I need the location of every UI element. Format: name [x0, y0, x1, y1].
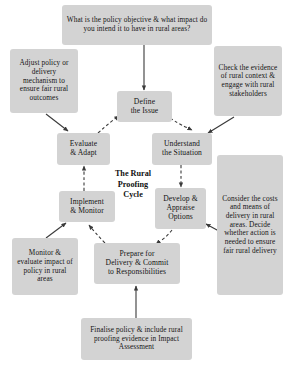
- cycle-arrow-prepare-to-implement: [89, 225, 105, 243]
- annotation-consider-costs: Consider the costs and means of delivery…: [217, 155, 283, 295]
- stage-evaluate-adapt: Evaluate& Adapt: [57, 133, 110, 165]
- annotation-check-evidence: Check the evidence of rural context & en…: [214, 46, 282, 116]
- stage-prepare-for-delivery: Prepare forDelivery & Committo Responsib…: [94, 243, 180, 284]
- annotation-monitor-evaluate: Monitor & evaluate impact of policy in r…: [12, 238, 78, 295]
- cycle-arrow-develop-to-prepare: [156, 230, 172, 244]
- annotation-adjust-policy: Adjust policy or delivery mechanism to e…: [10, 49, 78, 113]
- annotation-policy-objective: What is the policy objective & what impa…: [62, 5, 212, 45]
- arrow-evidence-to-understand: [208, 117, 234, 133]
- stage-define-the-issue: Definethe Issue: [117, 91, 172, 122]
- cycle-arrow-evaluate-to-define: [98, 116, 119, 133]
- diagram-center-title: The RuralProofingCycle: [97, 169, 169, 201]
- arrow-adjust-to-evaluate: [46, 114, 68, 131]
- cycle-arrow-define-to-understand: [170, 118, 192, 130]
- stage-understand-the-situation: Understandthe Situation: [152, 133, 212, 165]
- rural-proofing-cycle-diagram: What is the policy objective & what impa…: [0, 0, 287, 368]
- arrow-monitor-to-implement: [46, 223, 66, 238]
- annotation-finalise-policy: Finalise policy & include rural proofing…: [81, 318, 192, 360]
